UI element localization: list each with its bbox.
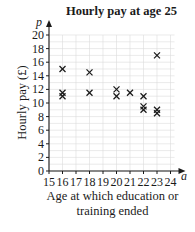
svg-text:8: 8 [38, 110, 44, 124]
svg-text:20: 20 [111, 175, 123, 189]
x-axis-label-line-2: training ended [30, 204, 195, 219]
svg-text:17: 17 [70, 175, 82, 189]
svg-text:23: 23 [151, 175, 163, 189]
y-axis-ticks: 02468101214161820 [32, 28, 49, 178]
svg-text:10: 10 [32, 96, 44, 110]
x-axis-label-line-1: Age at which education or [30, 189, 195, 204]
svg-text:20: 20 [32, 28, 44, 42]
svg-text:15: 15 [43, 175, 55, 189]
svg-text:4: 4 [38, 137, 44, 151]
x-axis-symbol: a [181, 169, 187, 183]
svg-text:19: 19 [97, 175, 109, 189]
svg-text:24: 24 [165, 175, 177, 189]
svg-text:22: 22 [138, 175, 150, 189]
grid-lines [49, 35, 175, 171]
x-axis-label: Age at which education or training ended [30, 189, 195, 219]
svg-text:12: 12 [32, 82, 44, 96]
svg-text:14: 14 [32, 69, 44, 83]
svg-text:21: 21 [124, 175, 136, 189]
svg-text:6: 6 [38, 123, 44, 137]
svg-text:16: 16 [57, 175, 69, 189]
svg-text:18: 18 [84, 175, 96, 189]
y-axis-symbol: p [35, 15, 42, 29]
svg-text:18: 18 [32, 42, 44, 56]
scatter-plot: 02468101214161820 15161718192021222324 p… [0, 0, 195, 190]
svg-text:16: 16 [32, 55, 44, 69]
svg-text:2: 2 [38, 150, 44, 164]
x-axis-ticks: 15161718192021222324 [43, 171, 177, 189]
